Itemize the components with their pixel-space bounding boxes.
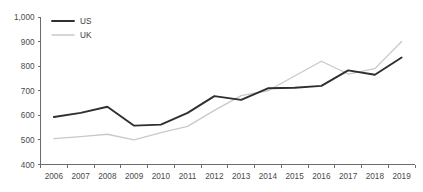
x-tick-label-2018: 2018	[366, 172, 385, 181]
x-tick-label-2019: 2019	[393, 172, 412, 181]
y-tick-label-900: 900	[21, 38, 35, 47]
x-tick-label-2006: 2006	[45, 172, 64, 181]
legend-label-us: US	[80, 17, 92, 26]
x-tick-label-2013: 2013	[232, 172, 251, 181]
x-tick-label-2011: 2011	[179, 172, 197, 181]
x-tick-label-2012: 2012	[205, 172, 224, 181]
chart-legend: USUK	[52, 17, 92, 40]
x-tick-label-2008: 2008	[98, 172, 117, 181]
y-tick-label-600: 600	[21, 111, 35, 120]
chart-plot-area: 4005006007008009001,000 2006200720082009…	[0, 0, 423, 192]
x-tick-label-2010: 2010	[152, 172, 171, 181]
x-tick-label-2014: 2014	[259, 172, 278, 181]
series-line-uk	[54, 42, 402, 140]
x-tick-label-2009: 2009	[125, 172, 144, 181]
y-tick-label-800: 800	[21, 62, 35, 71]
y-tick-label-400: 400	[21, 161, 35, 170]
x-tick-label-2007: 2007	[72, 172, 91, 181]
x-tick-label-2016: 2016	[312, 172, 331, 181]
x-tick-label-2015: 2015	[286, 172, 305, 181]
x-axis: 2006200720082009201020112012201320142015…	[41, 165, 416, 181]
y-tick-label-500: 500	[21, 136, 35, 145]
series-line-us	[54, 58, 402, 126]
y-axis-tick-labels: 4005006007008009001,000	[14, 13, 35, 170]
line-chart: 4005006007008009001,000 2006200720082009…	[0, 0, 423, 192]
x-tick-label-2017: 2017	[339, 172, 358, 181]
x-axis-tick-labels: 2006200720082009201020112012201320142015…	[45, 172, 411, 181]
data-series-group	[54, 42, 402, 140]
y-axis: 4005006007008009001,000	[14, 13, 41, 170]
legend-label-uk: UK	[80, 31, 92, 40]
y-tick-label-700: 700	[21, 87, 35, 96]
y-tick-label-1000: 1,000	[14, 13, 35, 22]
